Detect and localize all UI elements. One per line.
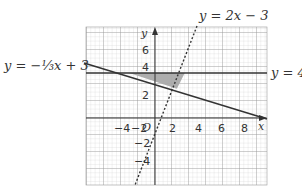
x-tick: 6 [218,122,225,135]
graph-figure: y = −⅓x + 3 y = 2x − 3 y = 4 x y O −4 −2… [0,0,302,193]
x-tick: −2 [131,122,147,135]
x-tick: 2 [169,122,176,135]
y-tick: 2 [142,89,149,102]
y-tick: 6 [142,44,149,57]
grid [86,27,267,185]
label-line-a: y = −⅓x + 3 [3,58,89,73]
x-tick: 8 [241,122,248,135]
x-tick: 4 [195,122,202,135]
y-tick: −4 [134,155,150,168]
label-line-b: y = 2x − 3 [198,8,269,23]
label-line-c: y = 4 [270,65,302,80]
x-tick: −4 [114,122,130,135]
label-y-axis: y [140,27,148,40]
y-tick: −2 [134,137,150,150]
label-x-axis: x [258,120,265,133]
y-tick: 4 [142,61,149,74]
